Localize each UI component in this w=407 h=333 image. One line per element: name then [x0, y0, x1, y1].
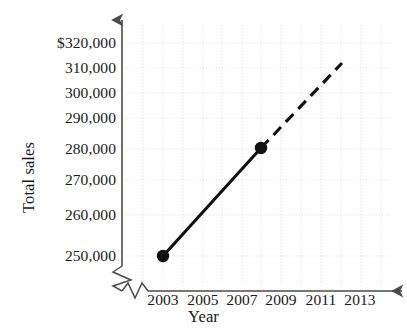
- x-axis-title: Year: [0, 307, 407, 327]
- y-tick-label-290000: 290,000: [20, 109, 116, 127]
- data-point-2003: [157, 250, 169, 262]
- y-tick-label-300000: 300,000: [20, 84, 116, 102]
- y-axis-title: Total sales: [19, 142, 39, 213]
- sales-line-chart: $320,000 310,000 300,000 290,000 280,000…: [0, 0, 407, 333]
- series-observed: [163, 148, 261, 256]
- y-tick-label-250000: 250,000: [20, 247, 116, 265]
- y-axis-break-symbol: [113, 266, 131, 291]
- y-tick-label-310000: 310,000: [20, 59, 116, 77]
- gridlines-vertical: [143, 25, 381, 284]
- data-point-2008: [255, 142, 267, 154]
- series-projected: [261, 63, 342, 148]
- y-tick-label-320000: $320,000: [20, 34, 116, 52]
